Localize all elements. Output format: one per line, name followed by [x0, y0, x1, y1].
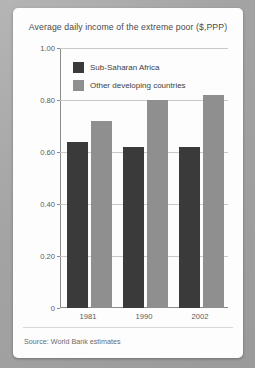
- bar-1981-series-2: [91, 121, 112, 308]
- bar-1990-series-1: [123, 147, 144, 308]
- bar-2002-series-1: [179, 147, 200, 308]
- bar-1990-series-2: [147, 100, 168, 308]
- x-axis-tick-label-2002: 2002: [172, 312, 228, 321]
- y-axis-tick-mark: [57, 308, 60, 309]
- y-axis-tick-label: 0.60: [40, 148, 55, 157]
- bar-group-1981: 1981: [60, 48, 116, 308]
- y-axis-tick-label: 1.00: [40, 44, 55, 53]
- y-axis-tick-label: 0.20: [40, 252, 55, 261]
- footer-divider: [23, 327, 233, 328]
- source-note: Source: World Bank estimates: [24, 337, 121, 346]
- page-title: Average daily income of the extreme poor…: [13, 22, 243, 32]
- plot-area: 00.200.400.600.801.00198119902002: [60, 48, 228, 308]
- y-axis-tick-label: 0: [51, 304, 55, 313]
- figure-outer-frame: Average daily income of the extreme poor…: [0, 0, 255, 368]
- x-axis-tick-label-1981: 1981: [60, 312, 116, 321]
- y-axis-tick-label: 0.80: [40, 96, 55, 105]
- y-axis-tick-label: 0.40: [40, 200, 55, 209]
- bar-1981-series-1: [67, 142, 88, 308]
- bar-2002-series-2: [203, 95, 224, 308]
- chart-card: Average daily income of the extreme poor…: [13, 8, 243, 358]
- x-axis-tick-label-1990: 1990: [116, 312, 172, 321]
- bar-group-1990: 1990: [116, 48, 172, 308]
- bar-group-2002: 2002: [172, 48, 228, 308]
